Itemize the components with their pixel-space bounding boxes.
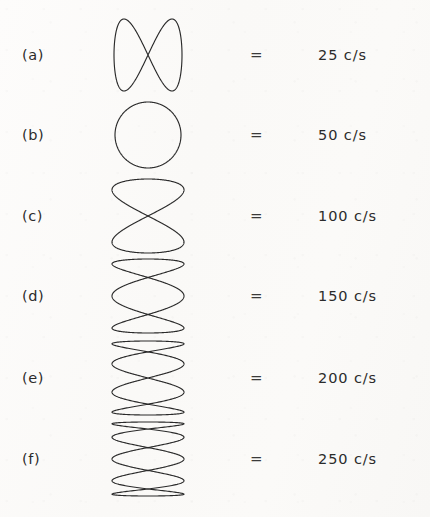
equals-sign: = <box>250 207 263 225</box>
page-edge-artifact <box>120 0 210 7</box>
frequency-value: 250 c/s <box>318 451 377 467</box>
lissajous-pattern-vertical-lobes <box>108 177 188 255</box>
scanned-figure-page: (a)=25 c/s(b)=50 c/s(c)=100 c/s(d)=150 c… <box>0 0 430 517</box>
frequency-value: 150 c/s <box>318 288 377 304</box>
lissajous-row: (e)=200 c/s <box>0 338 430 418</box>
row-label: (c) <box>22 208 43 224</box>
equals-sign: = <box>250 126 263 144</box>
lissajous-pattern-circle <box>108 96 188 174</box>
equals-sign: = <box>250 46 263 64</box>
lissajous-pattern-vertical-lobes <box>108 420 188 498</box>
equals-sign: = <box>250 287 263 305</box>
equals-sign: = <box>250 369 263 387</box>
equals-sign: = <box>250 450 263 468</box>
row-label: (e) <box>22 370 44 386</box>
lissajous-pattern-vertical-lobes <box>108 257 188 335</box>
lissajous-row: (c)=100 c/s <box>0 176 430 256</box>
row-label: (a) <box>22 47 44 63</box>
lissajous-row: (b)=50 c/s <box>0 95 430 175</box>
row-label: (f) <box>22 451 40 467</box>
lissajous-row: (f)=250 c/s <box>0 419 430 499</box>
frequency-value: 25 c/s <box>318 47 367 63</box>
frequency-value: 100 c/s <box>318 208 377 224</box>
row-label: (b) <box>22 127 44 143</box>
frequency-value: 200 c/s <box>318 370 377 386</box>
lissajous-row: (a)=25 c/s <box>0 15 430 95</box>
lissajous-pattern-vertical-lobes <box>108 339 188 417</box>
frequency-value: 50 c/s <box>318 127 367 143</box>
lissajous-pattern-horizontal-figure-eight <box>108 16 188 94</box>
row-label: (d) <box>22 288 44 304</box>
lissajous-row: (d)=150 c/s <box>0 256 430 336</box>
